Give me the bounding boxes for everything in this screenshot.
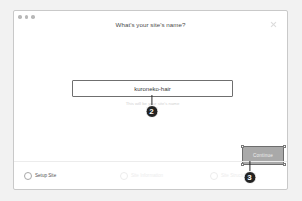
window-titlebar: What's your site's name? bbox=[14, 11, 287, 37]
annotation-callout-3: 3 bbox=[243, 161, 256, 193]
annotation-badge: 3 bbox=[243, 171, 256, 184]
step-circle-icon bbox=[210, 172, 218, 180]
step-circle-icon bbox=[24, 172, 32, 180]
window-controls[interactable] bbox=[18, 15, 35, 19]
annotation-callout-2: 2 bbox=[145, 95, 158, 125]
stepper-label: Setup Site bbox=[35, 173, 56, 178]
selection-handle-top-right[interactable] bbox=[283, 145, 286, 148]
screenshot-root: What's your site's name? kuroneko-hair T… bbox=[0, 0, 302, 201]
annotation-badge: 2 bbox=[145, 105, 158, 118]
maximize-dot[interactable] bbox=[31, 15, 35, 19]
minimize-dot[interactable] bbox=[25, 15, 29, 19]
close-dot[interactable] bbox=[18, 15, 22, 19]
stepper-item-site-information[interactable]: Site Information bbox=[120, 172, 163, 180]
stepper-label: Site Information bbox=[131, 173, 163, 178]
page-title: What's your site's name? bbox=[14, 21, 287, 28]
selection-handle-top-left[interactable] bbox=[241, 145, 244, 148]
step-circle-icon bbox=[120, 172, 128, 180]
close-icon[interactable] bbox=[270, 21, 277, 28]
stepper-item-setup-site[interactable]: Setup Site bbox=[24, 172, 56, 180]
